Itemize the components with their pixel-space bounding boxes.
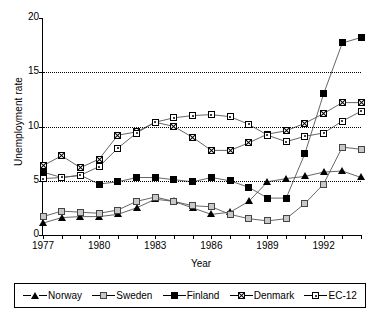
series-line-norway — [43, 171, 361, 223]
data-point-ec-12 — [152, 119, 159, 126]
data-point-ec-12 — [264, 132, 271, 139]
data-point-ec-12 — [283, 138, 290, 145]
legend-item-ec-12[interactable]: EC-12 — [304, 290, 356, 301]
data-point-denmark — [339, 99, 346, 106]
data-point-sweden — [96, 210, 103, 217]
data-point-sweden — [114, 207, 121, 214]
data-point-sweden — [133, 198, 140, 205]
data-point-ec-12 — [301, 133, 308, 140]
y-tick-label: 15 — [13, 65, 43, 76]
x-tick-mark — [305, 235, 306, 239]
x-tick-mark — [249, 235, 250, 239]
x-tick-label: 1983 — [135, 240, 175, 251]
data-point-finland — [114, 178, 121, 185]
data-point-finland — [320, 90, 327, 97]
grey-square-marker — [100, 292, 107, 299]
data-point-ec-12 — [40, 175, 47, 182]
y-tick-label: 0 — [13, 228, 43, 239]
data-point-finland — [152, 174, 159, 181]
legend-line-left — [23, 295, 31, 296]
data-point-ec-12 — [320, 130, 327, 137]
legend-line-right — [245, 295, 253, 296]
filled-triangle-marker — [31, 292, 39, 299]
black-square-marker — [171, 292, 178, 299]
data-point-ec-12 — [227, 113, 234, 120]
y-tick-label: 20 — [13, 11, 43, 22]
data-point-finland — [301, 150, 308, 157]
x-tick-mark — [267, 235, 268, 239]
data-point-ec-12 — [77, 172, 84, 179]
data-point-finland — [358, 34, 365, 41]
legend-line-right — [39, 295, 47, 296]
data-point-finland — [264, 195, 271, 202]
x-tick-mark — [211, 235, 212, 239]
x-tick-mark — [361, 235, 362, 239]
data-point-sweden — [245, 215, 252, 222]
data-point-norway — [207, 210, 215, 217]
data-point-finland — [245, 184, 252, 191]
data-point-ec-12 — [339, 118, 346, 125]
legend-line-left — [230, 295, 238, 296]
data-point-finland — [283, 195, 290, 202]
data-point-norway — [263, 178, 271, 185]
data-point-sweden — [152, 194, 159, 201]
legend-line-right — [107, 295, 115, 296]
x-tick-mark — [99, 235, 100, 239]
legend-item-sweden[interactable]: Sweden — [92, 290, 152, 301]
data-point-denmark — [358, 99, 365, 106]
data-point-norway — [58, 214, 66, 221]
chart-figure: Unemployment rate 0510152019771980198319… — [0, 0, 386, 316]
data-point-denmark — [320, 110, 327, 117]
data-point-ec-12 — [208, 111, 215, 118]
data-point-finland — [170, 176, 177, 183]
data-point-sweden — [40, 213, 47, 220]
data-point-finland — [133, 174, 140, 181]
x-tick-mark — [118, 235, 119, 239]
data-point-ec-12 — [189, 112, 196, 119]
data-point-norway — [282, 175, 290, 182]
data-point-ec-12 — [58, 174, 65, 181]
legend-item-denmark[interactable]: Denmark — [230, 290, 295, 301]
legend-line-left — [92, 295, 100, 296]
data-point-denmark — [77, 164, 84, 171]
series-line-ec-12 — [43, 111, 361, 178]
legend-label: Norway — [48, 290, 82, 301]
x-tick-mark — [62, 235, 63, 239]
x-tick-mark — [193, 235, 194, 239]
data-point-sweden — [283, 215, 290, 222]
legend-line-left — [304, 295, 312, 296]
legend-label: EC-12 — [328, 290, 356, 301]
data-point-finland — [96, 181, 103, 188]
data-point-sweden — [208, 203, 215, 210]
legend-line-right — [178, 295, 186, 296]
chart-legend: NorwaySwedenFinlandDenmarkEC-12 — [14, 283, 366, 308]
square-with-x-marker — [238, 292, 245, 299]
data-point-denmark — [283, 127, 290, 134]
data-point-sweden — [339, 144, 346, 151]
data-point-norway — [301, 172, 309, 179]
x-tick-label: 1989 — [247, 240, 287, 251]
x-tick-label: 1992 — [304, 240, 344, 251]
legend-label: Sweden — [116, 290, 152, 301]
data-point-sweden — [58, 208, 65, 215]
x-tick-mark — [174, 235, 175, 239]
legend-line-left — [163, 295, 171, 296]
data-point-sweden — [227, 211, 234, 218]
legend-item-finland[interactable]: Finland — [163, 290, 220, 301]
data-point-sweden — [77, 209, 84, 216]
data-point-denmark — [301, 120, 308, 127]
data-point-denmark — [227, 147, 234, 154]
x-tick-label: 1980 — [79, 240, 119, 251]
data-point-norway — [320, 168, 328, 175]
x-tick-mark — [155, 235, 156, 239]
data-point-sweden — [301, 200, 308, 207]
data-point-denmark — [189, 134, 196, 141]
data-point-denmark — [114, 132, 121, 139]
legend-item-norway[interactable]: Norway — [23, 290, 82, 301]
x-tick-mark — [137, 235, 138, 239]
x-tick-mark — [43, 235, 44, 239]
data-point-ec-12 — [170, 114, 177, 121]
data-point-finland — [189, 178, 196, 185]
data-point-norway — [245, 197, 253, 204]
data-point-sweden — [189, 202, 196, 209]
